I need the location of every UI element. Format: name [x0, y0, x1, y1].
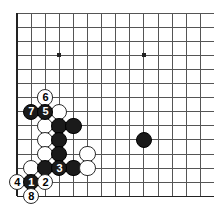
- stone-black: [136, 132, 152, 148]
- stone-white: [79, 160, 95, 176]
- stone-move-number: 2: [42, 177, 48, 188]
- stone-move-number: 3: [56, 163, 62, 174]
- stone-white-move-2: 2: [37, 174, 53, 190]
- go-board-diagram: 67534128: [0, 0, 214, 207]
- stone-move-number: 6: [42, 92, 48, 103]
- stone-black-move-3: 3: [51, 160, 67, 176]
- stone-white-move-8: 8: [23, 188, 39, 204]
- stone-move-number: 4: [14, 177, 20, 188]
- stone-layer: 67534128: [0, 0, 214, 207]
- stone-black-move-5: 5: [37, 104, 53, 120]
- stone-black: [65, 118, 81, 134]
- stone-move-number: 1: [28, 177, 34, 188]
- stone-move-number: 7: [28, 106, 34, 117]
- stone-move-number: 5: [42, 106, 48, 117]
- stone-move-number: 8: [28, 191, 34, 202]
